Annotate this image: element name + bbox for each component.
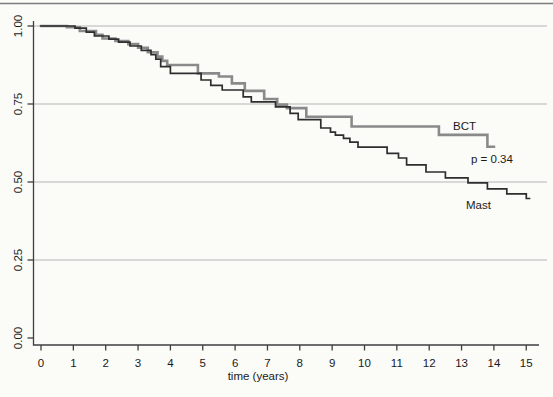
x-tick-label: 10	[358, 357, 371, 369]
x-tick-label: 12	[423, 357, 436, 369]
curves-layer	[41, 26, 530, 199]
x-axis-title: time (years)	[228, 370, 289, 382]
x-tick-label: 14	[488, 357, 501, 369]
x-tick-label: 3	[135, 357, 141, 369]
km-survival-chart: 0.000.250.500.751.0001234567891011121314…	[0, 0, 553, 397]
x-tick-label: 13	[455, 357, 468, 369]
y-tick-label: 0.25	[12, 249, 24, 271]
y-tick-label: 1.00	[12, 15, 24, 37]
x-tick-label: 7	[264, 357, 270, 369]
x-tick-label: 1	[70, 357, 76, 369]
x-tick-label: 2	[102, 357, 108, 369]
x-tick-label: 5	[200, 357, 206, 369]
p-value-label: p = 0.34	[471, 153, 513, 165]
survival-curve-mast	[41, 26, 530, 199]
x-tick-label: 4	[167, 357, 174, 369]
y-tick-label: 0.75	[12, 93, 24, 115]
series-label-bct: BCT	[453, 120, 476, 132]
axis-lines	[34, 21, 540, 345]
y-tick-label: 0.50	[12, 171, 24, 193]
x-tick-label: 6	[232, 357, 238, 369]
survival-curve-bct	[41, 26, 494, 147]
x-tick-label: 0	[38, 357, 44, 369]
axes-layer: 0.000.250.500.751.0001234567891011121314…	[12, 15, 539, 369]
x-tick-label: 9	[329, 357, 335, 369]
x-tick-label: 8	[297, 357, 303, 369]
scanned-figure-page: 0.000.250.500.751.0001234567891011121314…	[0, 0, 553, 397]
gridlines-layer	[34, 26, 548, 260]
x-tick-label: 15	[520, 357, 533, 369]
series-label-mast: Mast	[466, 199, 492, 211]
x-tick-label: 11	[391, 357, 403, 369]
y-tick-label: 0.00	[12, 327, 24, 349]
